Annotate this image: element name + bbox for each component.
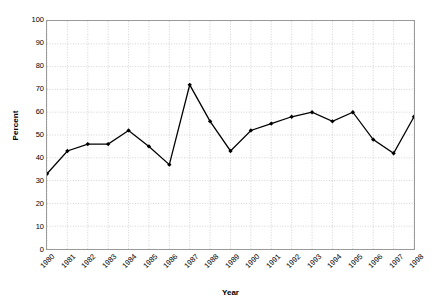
y-axis-tick-label: 50 xyxy=(22,131,44,139)
data-series xyxy=(47,21,414,249)
y-axis-tick-label: 100 xyxy=(22,16,44,24)
y-axis-tick-label: 30 xyxy=(22,177,44,185)
x-axis-title: Year xyxy=(46,288,415,297)
y-axis-tick-label: 70 xyxy=(22,85,44,93)
y-axis-tick-label: 0 xyxy=(22,246,44,254)
x-axis-tick-labels: 1980198119821983198419851986198719881989… xyxy=(46,252,415,292)
plot-area xyxy=(46,20,415,250)
y-axis-tick-label: 10 xyxy=(22,223,44,231)
y-axis-tick-label: 90 xyxy=(22,39,44,47)
y-axis-tick-label: 20 xyxy=(22,200,44,208)
y-axis-tick-label: 80 xyxy=(22,62,44,70)
y-axis-tick-label: 40 xyxy=(22,154,44,162)
y-axis-tick-label: 60 xyxy=(22,108,44,116)
x-axis-tick-label: 1998 xyxy=(419,240,437,258)
line-chart: Percent 0102030405060708090100 198019811… xyxy=(0,0,440,308)
